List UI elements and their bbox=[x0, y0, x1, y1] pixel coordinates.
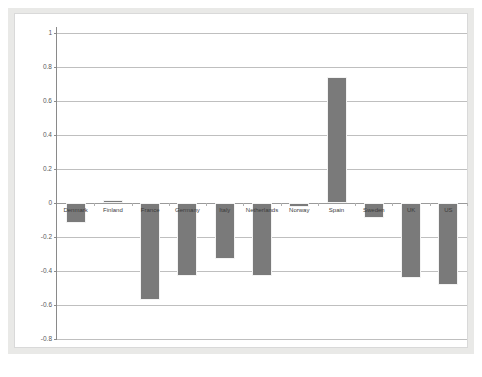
bar bbox=[252, 203, 272, 276]
x-axis-tick-mark bbox=[467, 203, 468, 206]
y-axis-tick-mark bbox=[54, 33, 57, 34]
x-axis-category-label: Italy bbox=[219, 207, 230, 213]
x-axis-tick-mark bbox=[94, 203, 95, 206]
x-axis-category-label: Finland bbox=[103, 207, 123, 213]
gridline bbox=[57, 339, 467, 340]
y-axis-tick-mark bbox=[54, 203, 57, 204]
y-axis-tick-label: -0.4 bbox=[41, 268, 52, 275]
y-axis-tick-label: -0.2 bbox=[41, 234, 52, 241]
gridline bbox=[57, 101, 467, 102]
x-axis-category-label: France bbox=[141, 207, 160, 213]
chart-plot: 10.80.60.40.20-0.2-0.4-0.6-0.8DenmarkFin… bbox=[15, 14, 469, 349]
x-axis-tick-mark bbox=[243, 203, 244, 206]
y-axis-tick-mark bbox=[54, 101, 57, 102]
x-axis-category-label: Denmark bbox=[63, 207, 87, 213]
y-axis-tick-mark bbox=[54, 305, 57, 306]
gridline bbox=[57, 33, 467, 34]
y-axis-line bbox=[56, 27, 57, 339]
y-axis-tick-mark bbox=[54, 271, 57, 272]
x-axis-tick-mark bbox=[318, 203, 319, 206]
y-axis-tick-mark bbox=[54, 339, 57, 340]
x-axis-tick-mark bbox=[355, 203, 356, 206]
x-axis-tick-mark bbox=[206, 203, 207, 206]
x-axis-tick-mark bbox=[392, 203, 393, 206]
bar bbox=[103, 200, 123, 203]
y-axis-tick-mark bbox=[54, 135, 57, 136]
x-axis-category-label: Sweden bbox=[363, 207, 385, 213]
x-axis-category-label: Germany bbox=[175, 207, 200, 213]
x-axis-tick-mark bbox=[169, 203, 170, 206]
page-canvas: 10.80.60.40.20-0.2-0.4-0.6-0.8DenmarkFin… bbox=[0, 0, 482, 377]
chart-container: 10.80.60.40.20-0.2-0.4-0.6-0.8DenmarkFin… bbox=[14, 13, 468, 348]
x-axis-category-label: Spain bbox=[329, 207, 344, 213]
bar bbox=[401, 203, 421, 278]
y-axis-tick-label: -0.6 bbox=[41, 302, 52, 309]
y-axis-tick-label: 0.6 bbox=[43, 98, 52, 105]
x-axis-category-label: Netherlands bbox=[246, 207, 278, 213]
y-axis-tick-label: -0.8 bbox=[41, 336, 52, 343]
bar bbox=[140, 203, 160, 300]
x-axis-tick-mark bbox=[132, 203, 133, 206]
bar bbox=[327, 77, 347, 203]
gridline bbox=[57, 305, 467, 306]
y-axis-tick-label: 0.8 bbox=[43, 64, 52, 71]
x-axis-tick-mark bbox=[281, 203, 282, 206]
x-axis-category-label: US bbox=[444, 207, 452, 213]
bar bbox=[438, 203, 458, 285]
y-axis-tick-label: 1 bbox=[48, 30, 52, 37]
bar bbox=[177, 203, 197, 276]
y-axis-tick-label: 0 bbox=[48, 200, 52, 207]
y-axis-tick-mark bbox=[54, 169, 57, 170]
x-axis-tick-mark bbox=[430, 203, 431, 206]
y-axis-tick-mark bbox=[54, 67, 57, 68]
plot-area: 10.80.60.40.20-0.2-0.4-0.6-0.8DenmarkFin… bbox=[57, 33, 467, 339]
y-axis-tick-label: 0.4 bbox=[43, 132, 52, 139]
x-axis-category-label: Norway bbox=[289, 207, 309, 213]
gridline bbox=[57, 169, 467, 170]
y-axis-tick-mark bbox=[54, 237, 57, 238]
y-axis-tick-label: 0.2 bbox=[43, 166, 52, 173]
gridline bbox=[57, 67, 467, 68]
x-axis-category-label: UK bbox=[407, 207, 415, 213]
gridline bbox=[57, 135, 467, 136]
